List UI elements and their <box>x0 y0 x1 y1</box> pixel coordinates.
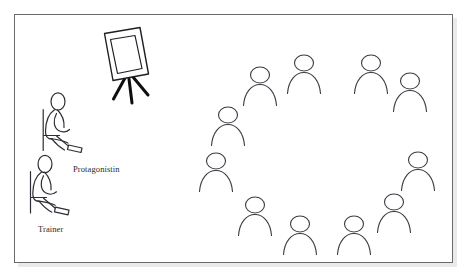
protagonistin-label: Protagonistin <box>73 164 120 174</box>
participant-head <box>409 152 428 168</box>
participant-head <box>362 55 381 71</box>
participant-head <box>251 67 270 83</box>
scene-illustration <box>0 0 467 279</box>
participant-head <box>345 216 364 232</box>
participant-head <box>295 55 314 71</box>
trainer-label: Trainer <box>38 224 63 234</box>
participant-head <box>207 153 226 169</box>
trainer-head <box>38 155 52 172</box>
participant-head <box>291 216 310 232</box>
scene-frame <box>15 15 453 263</box>
participant-head <box>385 194 404 210</box>
participant-head <box>219 107 238 123</box>
participant-head <box>401 73 420 89</box>
protagonistin-head <box>51 93 65 110</box>
participant-head <box>246 197 265 213</box>
